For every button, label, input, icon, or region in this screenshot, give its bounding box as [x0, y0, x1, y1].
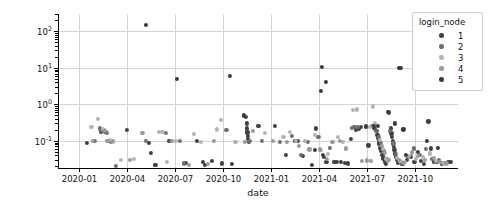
- data-point: [260, 138, 264, 142]
- data-point: [245, 121, 249, 125]
- y-tick-minor: [55, 76, 58, 77]
- y-tick-minor: [55, 37, 58, 38]
- data-point: [330, 140, 334, 144]
- data-point: [436, 146, 440, 150]
- data-point: [140, 131, 144, 135]
- data-point: [233, 140, 237, 144]
- y-tick-minor: [55, 57, 58, 58]
- x-tick: [415, 168, 416, 172]
- y-tick-minor: [55, 50, 58, 51]
- data-point: [199, 140, 203, 144]
- legend-entries: 12345: [418, 30, 477, 85]
- data-point: [147, 141, 151, 145]
- data-point: [224, 128, 228, 132]
- data-point: [175, 77, 179, 81]
- legend-marker-icon: [436, 77, 447, 81]
- gridline-vertical: [271, 14, 272, 168]
- data-point: [209, 159, 213, 163]
- y-tick-minor: [55, 112, 58, 113]
- data-point: [271, 139, 275, 143]
- data-point: [366, 143, 370, 147]
- data-point: [128, 158, 132, 162]
- data-point: [263, 131, 267, 135]
- y-tick-label: 101: [37, 62, 52, 74]
- x-tick: [271, 168, 272, 172]
- data-point: [119, 158, 123, 162]
- x-tick-label: 2020-04: [110, 174, 146, 184]
- legend-marker-icon: [436, 55, 447, 59]
- data-point: [346, 161, 350, 165]
- y-tick-minor: [55, 39, 58, 40]
- data-point: [369, 159, 373, 163]
- data-point: [278, 140, 282, 144]
- legend-item-1: 1: [418, 30, 477, 41]
- data-point: [284, 153, 288, 157]
- gridline-vertical: [127, 14, 128, 168]
- legend-dot-icon: [439, 55, 443, 59]
- data-point: [426, 119, 430, 123]
- x-tick-label: 2020-10: [206, 174, 242, 184]
- y-tick-minor: [55, 70, 58, 71]
- y-tick-label: 102: [37, 25, 52, 37]
- data-point: [310, 163, 314, 167]
- data-point: [319, 89, 323, 93]
- y-tick-minor: [55, 110, 58, 111]
- data-point: [174, 139, 178, 143]
- y-tick-minor: [55, 79, 58, 80]
- gridline-vertical: [79, 14, 80, 168]
- data-point: [325, 157, 329, 161]
- data-point: [132, 157, 136, 161]
- x-tick: [127, 168, 128, 172]
- data-point: [401, 127, 405, 131]
- legend-dot-icon: [439, 33, 443, 37]
- y-tick-minor: [55, 106, 58, 107]
- y-tick-minor: [55, 149, 58, 150]
- data-point: [290, 133, 294, 137]
- y-tick-minor: [55, 46, 58, 47]
- y-tick-minor: [55, 119, 58, 120]
- data-point: [187, 163, 191, 167]
- y-tick-minor: [55, 155, 58, 156]
- data-point: [164, 131, 168, 135]
- x-tick: [367, 168, 368, 172]
- data-point: [144, 23, 148, 27]
- data-point: [218, 118, 222, 122]
- data-point: [313, 148, 317, 152]
- y-tick-minor: [55, 20, 58, 21]
- data-point: [113, 163, 117, 167]
- data-point: [273, 124, 277, 128]
- data-point: [398, 66, 402, 70]
- y-tick-minor: [55, 42, 58, 43]
- legend-item-2: 2: [418, 41, 477, 52]
- data-point: [96, 117, 100, 121]
- data-point: [178, 139, 182, 143]
- y-tick-minor: [55, 35, 58, 36]
- y-tick-minor: [55, 14, 58, 15]
- legend-dot-icon: [439, 77, 443, 81]
- data-point: [428, 151, 432, 155]
- gridline-vertical: [175, 14, 176, 168]
- data-point: [323, 80, 327, 84]
- data-point: [165, 159, 169, 163]
- y-tick-minor: [55, 123, 58, 124]
- legend-marker-icon: [436, 44, 447, 48]
- x-tick-label: 2020-01: [62, 174, 98, 184]
- y-tick-minor: [55, 166, 58, 167]
- x-tick: [319, 168, 320, 172]
- data-point: [355, 107, 359, 111]
- y-axis-spine: [58, 14, 59, 169]
- data-point: [314, 126, 318, 130]
- data-point: [424, 139, 428, 143]
- x-tick-label: 2021-01: [254, 174, 290, 184]
- y-tick-minor: [55, 71, 58, 72]
- data-point: [429, 146, 433, 150]
- x-tick-label: 2021-04: [302, 174, 338, 184]
- x-tick-label: 2021-07: [350, 174, 386, 184]
- data-point: [410, 150, 414, 154]
- data-point: [227, 74, 231, 78]
- data-point: [422, 162, 426, 166]
- x-tick: [175, 168, 176, 172]
- y-tick-minor: [55, 146, 58, 147]
- x-tick-label: 2021-10: [398, 174, 434, 184]
- data-point: [215, 127, 219, 131]
